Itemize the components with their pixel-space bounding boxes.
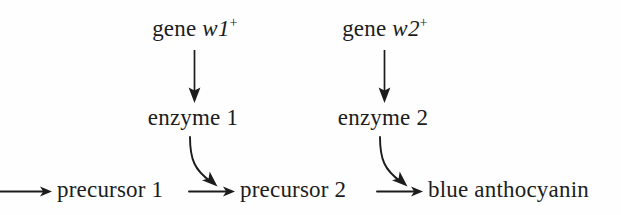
arrow-enzyme2-to-step2 bbox=[380, 137, 408, 187]
pathway-label-precursor-2: precursor 2 bbox=[240, 178, 346, 201]
arrow-inflow bbox=[0, 187, 52, 197]
gene-symbol-1: w1 bbox=[202, 16, 229, 41]
gene-symbol-2: w2 bbox=[392, 16, 419, 41]
pathway-label-precursor-1: precursor 1 bbox=[57, 178, 163, 201]
enzyme-label-2: enzyme 2 bbox=[338, 106, 428, 129]
gene-superscript-2: + bbox=[420, 14, 428, 30]
pathway-diagram: gene w1+ gene w2+ enzyme 1 enzyme 2 prec… bbox=[0, 0, 621, 215]
arrow-gene1-to-enzyme1 bbox=[189, 50, 201, 103]
arrow-gene2-to-enzyme2 bbox=[379, 50, 391, 103]
gene-prefix-1: gene bbox=[152, 16, 202, 41]
pathway-label-blue-anthocyanin: blue anthocyanin bbox=[428, 178, 589, 201]
gene-superscript-1: + bbox=[230, 14, 238, 30]
gene-label-w2: gene w2+ bbox=[342, 15, 428, 40]
arrow-enzyme1-to-step1 bbox=[190, 137, 218, 187]
gene-label-w1: gene w1+ bbox=[152, 15, 238, 40]
arrow-precursor1-to-precursor2 bbox=[189, 187, 235, 197]
arrow-precursor2-to-product bbox=[377, 187, 423, 197]
gene-prefix-2: gene bbox=[342, 16, 392, 41]
enzyme-label-1: enzyme 1 bbox=[148, 106, 238, 129]
